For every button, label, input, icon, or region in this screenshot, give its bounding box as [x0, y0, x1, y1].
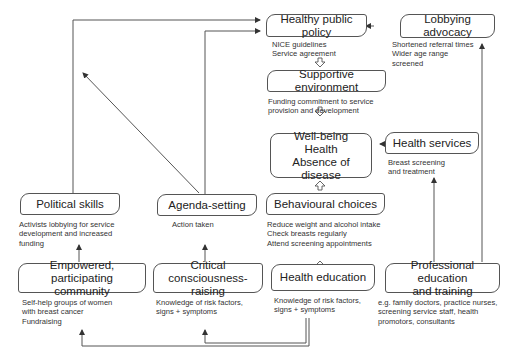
lobbying-advocacy-box: Lobbying advocacy: [400, 14, 495, 38]
behavioural-choices-box: Behavioural choices: [266, 193, 385, 215]
well-being-box: Well-being Health Absence of disease: [270, 133, 372, 178]
behavioural-choices-note: Reduce weight and alcohol intake Check b…: [267, 220, 381, 248]
professional-education-box: Professional education and training: [385, 263, 500, 293]
healthy-public-policy-note: NICE guidelines Service agreement: [272, 40, 336, 59]
political-skills-note: Activists lobbying for service developme…: [19, 220, 114, 248]
empowered-community-note: Self-help groups of women with breast ca…: [22, 298, 112, 326]
political-skills-box: Political skills: [20, 193, 120, 215]
hollow-down-arrow-icon: [315, 58, 325, 67]
health-services-box: Health services: [385, 132, 479, 154]
empowered-community-box: Empowered, participating community: [18, 263, 146, 293]
agenda-setting-box: Agenda-setting: [157, 194, 257, 216]
critical-consciousness-note: Knowledge of risk factors, signs + sympt…: [156, 298, 243, 317]
lobbying-advocacy-note: Shortened referral times Wider age range…: [392, 40, 473, 68]
health-education-box: Health education: [271, 264, 375, 291]
supportive-environment-note: Funding commitment to service provision …: [268, 97, 374, 116]
health-services-note: Breast screening and treatment: [388, 158, 445, 177]
professional-education-note: e.g. family doctors, practice nurses, sc…: [378, 298, 497, 326]
critical-consciousness-box: Critical consciousness-raising: [153, 263, 263, 293]
healthy-public-policy-box: Healthy public policy: [266, 14, 367, 37]
health-education-note: Knowledge of risk factors, signs + sympt…: [274, 296, 361, 315]
agenda-setting-note: Action taken: [172, 220, 214, 229]
supportive-environment-box: Supportive environment: [267, 70, 386, 92]
hollow-up-arrow-icon: [315, 181, 325, 190]
